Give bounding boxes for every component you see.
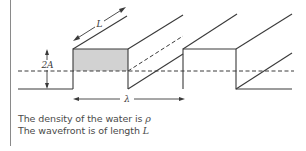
- rho-symbol: ρ: [145, 113, 151, 124]
- arrow-head-down-icon: [45, 83, 49, 89]
- wavelength-label: λ: [123, 94, 130, 104]
- caption-density-text: The density of the water is: [18, 113, 145, 124]
- crest-2: [183, 49, 292, 89]
- depth-edge-4: [236, 14, 292, 49]
- length-symbol: L: [143, 125, 149, 136]
- shaded-crest: [73, 49, 128, 71]
- caption-density: The density of the water is ρ: [18, 113, 151, 124]
- amplitude-label: 2A: [40, 60, 54, 70]
- arrow-head-left-icon: [73, 97, 79, 101]
- arrow-head-sw-icon: [73, 35, 80, 41]
- depth-edge-3: [183, 14, 237, 49]
- caption-length: The wavefront is of length L: [18, 125, 149, 136]
- caption-length-text: The wavefront is of length: [18, 125, 143, 136]
- arrow-head-ne-icon: [119, 7, 126, 13]
- depth-edge-6: [236, 53, 292, 89]
- arrow-head-up-icon: [45, 49, 49, 55]
- depth-edge-2: [128, 15, 183, 49]
- equilibrium-depth-line: [128, 36, 183, 71]
- length-label: L: [96, 19, 103, 29]
- arrow-head-right-icon: [179, 97, 185, 101]
